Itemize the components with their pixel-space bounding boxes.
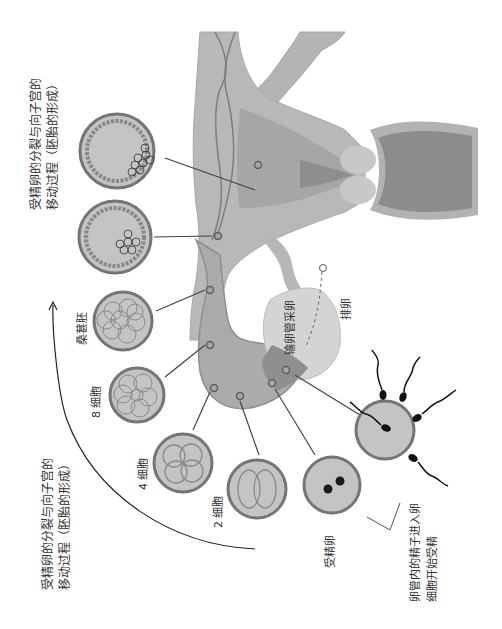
label-fimbria: 输卵管采卵 <box>282 300 299 355</box>
fertilized-egg-cell <box>304 457 360 513</box>
title-top-line2: 移动过程（胚胎的形成） <box>45 78 62 210</box>
four-cell <box>154 434 212 492</box>
title-bottom: 受精卵的分裂与向子宫的 移动过程（胚胎的形成） <box>40 458 74 590</box>
vagina-canal <box>378 131 472 212</box>
cervix-lobe-bottom <box>340 176 376 204</box>
title-top-line1: 受精卵的分裂与向子宫的 <box>28 78 45 210</box>
two-cell <box>228 460 286 518</box>
label-morula: 桑葚胚 <box>74 312 91 345</box>
early-blastocyst-cell <box>79 201 151 273</box>
title-bottom-line2: 移动过程（胚胎的形成） <box>57 458 74 590</box>
uterus <box>190 32 478 409</box>
label-fertilization-line1: 卵管内的精子进入卵 <box>407 503 424 602</box>
ovulated-egg-icon <box>320 265 327 272</box>
label-fertilized-egg: 受精卵 <box>322 535 339 568</box>
label-fertilization: 卵管内的精子进入卵 细胞开始受精 <box>407 503 441 602</box>
cervix-lobe-top <box>340 146 376 174</box>
blastocyst-cell <box>80 114 154 188</box>
label-two-cell: 2 细胞 <box>210 496 227 529</box>
title-top: 受精卵的分裂与向子宫的 移动过程（胚胎的形成） <box>28 78 62 210</box>
eight-cell <box>110 368 164 422</box>
egg-with-sperm <box>350 350 456 486</box>
title-bottom-line1: 受精卵的分裂与向子宫的 <box>40 458 57 590</box>
label-eight-cell: 8 细胞 <box>88 386 105 419</box>
fertilization-bracket <box>367 503 400 530</box>
fertilization-diagram: 受精卵的分裂与向子宫的 移动过程（胚胎的形成） 受精卵的分裂与向子宫的 移动过程… <box>0 0 502 629</box>
label-fertilization-line2: 细胞开始受精 <box>424 503 441 602</box>
morula-cell <box>94 292 152 350</box>
label-ovulation: 排卵 <box>338 298 355 320</box>
label-four-cell: 4 细胞 <box>135 458 152 491</box>
